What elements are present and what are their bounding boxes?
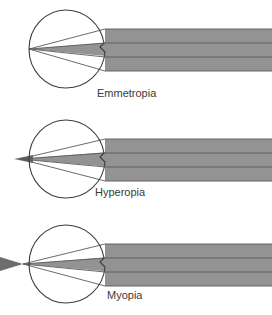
light-beam-outer-emmetropia [105,29,272,71]
label-myopia: Myopia [107,289,143,301]
label-emmetropia: Emmetropia [97,87,157,99]
label-hyperopia: Hyperopia [95,186,146,198]
light-beam-outer-hyperopia [105,139,272,181]
light-beam-outer-myopia [105,244,272,286]
refraction-figure: Emmetropia Hyperopia Myopia [0,0,272,315]
